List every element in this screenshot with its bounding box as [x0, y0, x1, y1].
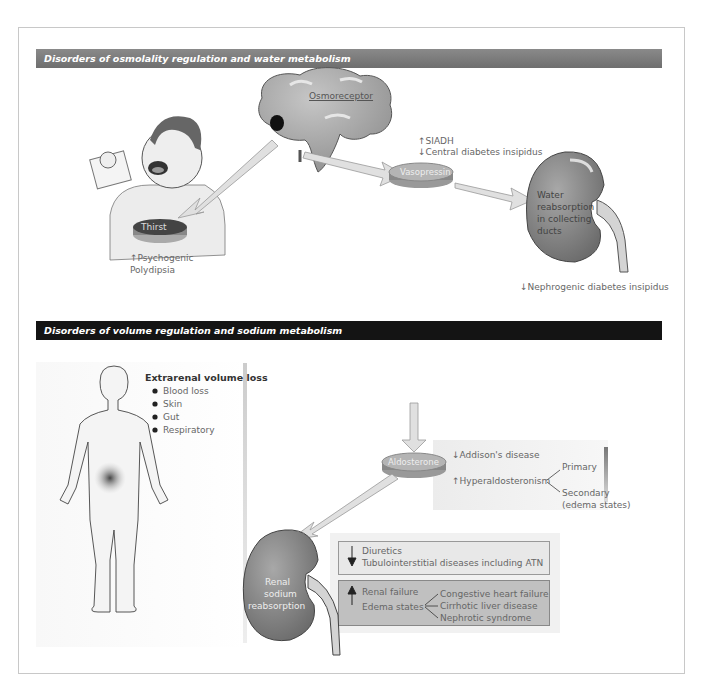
bullet-icon [152, 401, 157, 406]
edema-cause: Cirrhotic liver disease [440, 600, 538, 612]
arrow-up-icon [348, 586, 356, 605]
decrease-item: Diuretics [362, 545, 402, 557]
edema-states-label: Edema states [362, 601, 424, 613]
bullet-icon [152, 414, 157, 419]
decrease-item: Tubulointerstitial diseases including AT… [362, 557, 543, 569]
arrow-into-aldosterone [402, 403, 426, 452]
edema-cause: Congestive heart failure [440, 588, 548, 600]
extrarenal-item: Gut [163, 411, 179, 423]
arrow-down-icon [348, 546, 356, 566]
addisons-annotation: ↓Addison's disease [452, 449, 540, 461]
hyperaldo-annotation: ↑Hyperaldosteronism [452, 475, 550, 487]
kidney2-label-1: Renal [265, 576, 290, 588]
secondary-annotation-1: Secondary [562, 487, 610, 499]
bullet-icon [152, 388, 157, 393]
extrarenal-title: Extrarenal volume loss [145, 372, 268, 384]
secondary-annotation-2: (edema states) [562, 499, 630, 511]
aldosterone-label: Aldosterone [388, 456, 439, 468]
edema-branch [425, 594, 438, 618]
kidney2-label-2: sodium [264, 588, 297, 600]
extrarenal-item: Blood loss [163, 385, 209, 397]
extrarenal-item: Skin [163, 398, 182, 410]
kidney-highlight-icon [94, 462, 126, 494]
bullet-icon [152, 427, 157, 432]
kidney2-label-3: reabsorption [248, 600, 305, 612]
extrarenal-item: Respiratory [163, 424, 215, 436]
renal-failure-label: Renal failure [362, 586, 418, 598]
arrow-aldosterone-to-kidney [290, 474, 398, 540]
section2-graphics [0, 0, 706, 691]
primary-annotation: Primary [562, 461, 597, 473]
edema-cause: Nephrotic syndrome [440, 612, 531, 624]
